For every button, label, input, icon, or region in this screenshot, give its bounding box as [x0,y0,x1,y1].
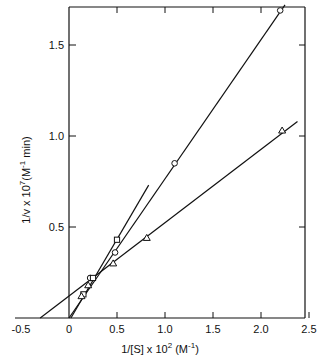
fit-line-triangles [40,121,297,318]
x-tick-label: 1.0 [157,323,172,335]
y-tick-label: 0.5 [49,221,64,233]
x-tick-label: 1.5 [205,323,220,335]
circle-marker [112,250,118,256]
x-tick-label: -0.5 [12,323,31,335]
lineweaver-burk-chart: -0.500.51.01.52.02.5 0.51.01.5 1/[S] x 1… [0,0,320,363]
square-marker [114,237,119,242]
x-tick-label: 0 [66,323,72,335]
square-marker [90,275,95,280]
y-axis-title: 1/v x 107(M-1 min) [18,136,32,223]
plot-frame [15,7,305,318]
y-tick-label: 1.5 [49,39,64,51]
x-axis-ticks: -0.500.51.01.52.02.5 [12,7,317,335]
y-tick-label: 1.0 [49,130,64,142]
x-tick-label: 2.5 [301,323,316,335]
x-axis-title: 1/[S] x 102 (M-1) [121,341,199,355]
fit-lines [40,5,297,318]
data-markers [78,8,286,299]
y-axis-ticks: 0.51.01.5 [49,39,305,233]
circle-marker [277,8,283,14]
x-tick-label: 0.5 [109,323,124,335]
triangle-marker [279,127,286,133]
x-tick-label: 2.0 [253,323,268,335]
circle-marker [172,161,178,167]
